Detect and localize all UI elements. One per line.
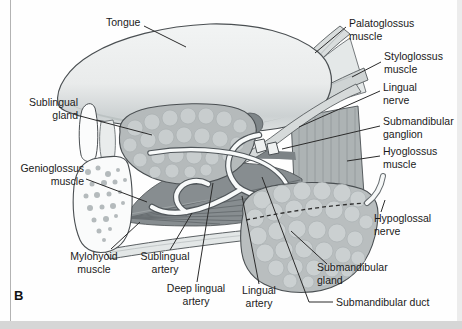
label-submandibular-duct: Submandibular duct — [336, 296, 429, 309]
label-genioglossus: Genioglossus muscle — [4, 162, 84, 188]
label-submandibular-gland: Submandibular gland — [317, 261, 388, 287]
label-sublingual-gland: Sublingual gland — [6, 96, 78, 122]
hypoglossal-nerve-shape — [367, 176, 383, 203]
label-lingual-artery: Lingual artery — [227, 284, 291, 310]
label-lingual-nerve: Lingual nerve — [383, 81, 417, 107]
page-right-band — [457, 0, 462, 321]
page-edge-line — [10, 0, 11, 322]
leader-hypoglossal — [381, 200, 385, 212]
label-styloglossus: Styloglossus muscle — [384, 50, 443, 76]
label-hyoglossus: Hyoglossus muscle — [383, 145, 437, 171]
figure-panel: Tongue Palatoglossus muscle Styloglossus… — [0, 0, 462, 329]
label-palatoglossus: Palatoglossus muscle — [349, 17, 414, 43]
label-hypoglossal: Hypoglossal nerve — [374, 212, 431, 238]
label-submandibular-ganglion: Submandibular ganglion — [383, 115, 454, 141]
label-mylohyoid: Mylohyoid muscle — [62, 250, 126, 276]
panel-letter: B — [14, 288, 23, 303]
tooth-shape — [79, 104, 98, 162]
page-bottom-band — [0, 321, 462, 329]
label-sublingual-artery: Sublingual artery — [133, 250, 197, 276]
label-tongue: Tongue — [106, 16, 140, 29]
